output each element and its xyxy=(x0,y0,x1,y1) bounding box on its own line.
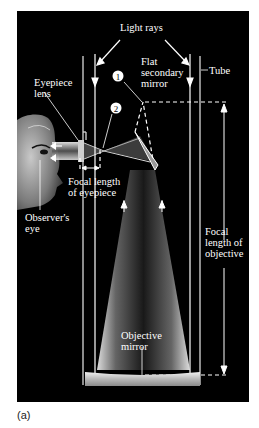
marker-1: 1 xyxy=(113,71,124,82)
reflecting-telescope-diagram: 1 2 Light rays Flat secondary mirror Tub… xyxy=(0,0,259,428)
label-focal-length-eyepiece-line1: Focal length xyxy=(68,176,120,187)
label-focal-length-objective-line2: length of xyxy=(205,237,243,248)
svg-text:2: 2 xyxy=(114,104,119,114)
marker-2: 2 xyxy=(111,103,122,114)
figure-caption: (a) xyxy=(17,409,30,421)
label-secondary-mirror-line3: mirror xyxy=(141,78,168,89)
label-focal-length-objective-line1: Focal xyxy=(205,226,228,237)
label-secondary-mirror-line2: secondary xyxy=(141,67,184,78)
label-objective-mirror-line1: Objective xyxy=(121,330,162,341)
label-focal-length-eyepiece-line2: of eyepiece xyxy=(68,187,116,198)
label-eyepiece-lens-line2: lens xyxy=(34,88,51,99)
label-focal-length-objective-line3: objective xyxy=(205,248,243,259)
label-secondary-mirror-line1: Flat xyxy=(141,56,157,67)
label-tube: Tube xyxy=(209,65,230,76)
label-observers-eye-line2: eye xyxy=(25,223,40,234)
label-light-rays: Light rays xyxy=(120,22,163,33)
svg-text:1: 1 xyxy=(116,72,121,82)
label-objective-mirror-line2: mirror xyxy=(121,341,148,352)
label-observers-eye-line1: Observer's xyxy=(25,212,69,223)
label-eyepiece-lens-line1: Eyepiece xyxy=(34,77,72,88)
